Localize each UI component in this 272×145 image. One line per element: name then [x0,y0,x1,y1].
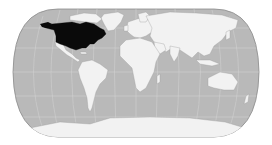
caribbean [80,52,87,54]
madagascar [157,74,160,84]
map-canvas [0,0,272,145]
british-isles [124,25,128,31]
world-map [0,0,272,145]
